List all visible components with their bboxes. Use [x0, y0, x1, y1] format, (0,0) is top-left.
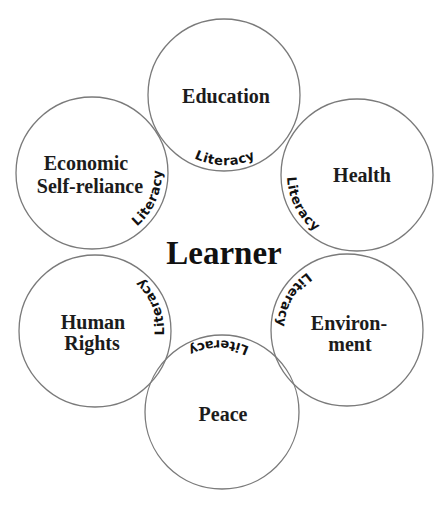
literacy-label-environment: Literacy [274, 270, 315, 328]
literacy-label-human-rights: Literacy [132, 276, 167, 336]
peace-label: Peace [199, 403, 248, 425]
economic-label-line2: Self-reliance [37, 175, 143, 197]
literacy-label-peace: Literacy [186, 337, 250, 359]
literacy-label-health: Literacy [284, 176, 323, 234]
learner-literacy-diagram: Education Health Environ- ment Peace Hum… [0, 0, 445, 505]
environment-label-line1: Environ- [311, 312, 387, 334]
economic-label-line1: Economic [44, 152, 129, 174]
human-rights-label-line2: Rights [64, 332, 120, 355]
education-label: Education [182, 85, 270, 107]
human-rights-label-line1: Human [61, 311, 125, 333]
learner-center-label: Learner [166, 235, 281, 271]
environment-label-line2: ment [328, 333, 372, 355]
health-label: Health [333, 164, 391, 186]
literacy-label-education: Literacy [193, 147, 257, 168]
